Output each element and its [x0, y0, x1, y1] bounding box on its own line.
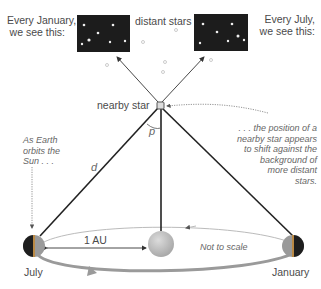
shift-note-pointer — [167, 104, 268, 113]
one-au-label: 1 AU — [84, 234, 107, 246]
nearby-star — [157, 102, 164, 109]
distant-stars-label: distant stars — [135, 15, 192, 27]
earth-january — [282, 235, 304, 257]
sightline-to-january — [117, 57, 158, 102]
july-label: July — [24, 266, 43, 278]
nearby-star-label: nearby star — [97, 99, 150, 111]
sightline-to-july — [162, 57, 204, 102]
distance-label: d — [91, 162, 97, 173]
january-caption: Every January, we see this: — [7, 14, 73, 38]
sun — [148, 231, 174, 257]
shift-note: . . . the position of a nearby star appe… — [216, 123, 317, 186]
january-sky-panel — [77, 15, 130, 52]
july-sky-panel — [194, 14, 248, 51]
as-earth-note: As Earth orbits the Sun . . . — [23, 135, 60, 167]
line-d-july — [40, 108, 158, 236]
parallax-angle-label: p — [149, 126, 155, 137]
july-caption: Every July, we see this: — [253, 13, 315, 37]
earth-july — [23, 235, 45, 257]
not-to-scale-label: Not to scale — [200, 242, 248, 253]
january-label: January — [272, 266, 309, 278]
